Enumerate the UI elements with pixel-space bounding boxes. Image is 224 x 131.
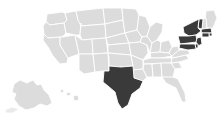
state-group-west [43, 8, 109, 74]
state-group-northeast [178, 10, 217, 50]
state-maryland[interactable] [179, 44, 196, 50]
state-montana[interactable] [76, 8, 105, 26]
us-choropleth-map [0, 0, 224, 131]
state-wyoming[interactable] [80, 23, 106, 40]
state-colorado[interactable] [92, 38, 108, 54]
state-alaska-aleutians[interactable] [5, 107, 19, 113]
state-alaska[interactable] [12, 80, 52, 110]
state-massachusetts[interactable] [201, 28, 212, 33]
state-connecticut[interactable] [202, 33, 209, 37]
state-oregon[interactable] [43, 22, 66, 38]
us-map-svg [0, 0, 224, 131]
state-florida[interactable] [162, 77, 186, 102]
state-new-york[interactable] [183, 19, 201, 36]
state-minnesota[interactable] [122, 8, 139, 33]
state-alabama[interactable] [152, 63, 162, 77]
state-group-hawaii [60, 89, 79, 101]
state-new-mexico[interactable] [93, 53, 109, 72]
state-group-south [143, 46, 190, 102]
state-arizona[interactable] [79, 54, 95, 74]
state-oklahoma[interactable] [108, 53, 133, 67]
state-pennsylvania[interactable] [178, 35, 197, 44]
state-group-alaska [5, 80, 52, 113]
state-hawaii[interactable] [60, 89, 79, 101]
